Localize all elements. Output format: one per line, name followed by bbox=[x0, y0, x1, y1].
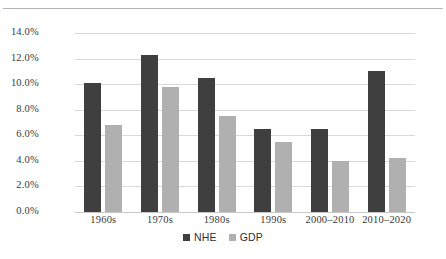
top-divider-rule bbox=[3, 8, 443, 9]
x-axis-tick-label: 1990s bbox=[245, 214, 302, 225]
gridline bbox=[75, 212, 415, 213]
bar-group bbox=[302, 33, 359, 212]
legend-swatch-icon bbox=[183, 234, 190, 241]
x-axis-tick-label: 1980s bbox=[188, 214, 245, 225]
x-axis-tick-label: 2000–2010 bbox=[302, 214, 359, 225]
bar-group bbox=[75, 33, 132, 212]
bar-gdp bbox=[162, 87, 179, 212]
bar-nhe bbox=[368, 71, 385, 212]
legend-label: GDP bbox=[240, 231, 263, 243]
bar-nhe bbox=[84, 83, 101, 212]
x-axis-tick-label: 1960s bbox=[75, 214, 132, 225]
bar-gdp bbox=[332, 161, 349, 212]
legend-swatch-icon bbox=[229, 234, 236, 241]
bar-gdp bbox=[219, 116, 236, 212]
bar-gdp bbox=[389, 158, 406, 212]
y-axis-tick-label: 10.0% bbox=[0, 77, 39, 88]
x-axis-tick-label: 1970s bbox=[132, 214, 189, 225]
y-axis-tick-label: 8.0% bbox=[0, 103, 39, 114]
y-axis-tick-label: 4.0% bbox=[0, 154, 39, 165]
bar-nhe bbox=[141, 55, 158, 212]
bar-group bbox=[132, 33, 189, 212]
x-axis-labels: 1960s1970s1980s1990s2000–20102010–2020 bbox=[75, 214, 415, 225]
y-axis-tick-label: 14.0% bbox=[0, 26, 39, 37]
y-axis-tick-label: 12.0% bbox=[0, 52, 39, 63]
y-axis-tick-label: 2.0% bbox=[0, 179, 39, 190]
bar-nhe bbox=[311, 129, 328, 212]
bar-group bbox=[188, 33, 245, 212]
bar-gdp bbox=[105, 125, 122, 212]
legend-label: NHE bbox=[194, 231, 217, 243]
chart-figure: 14.0%12.0%10.0%8.0%6.0%4.0%2.0%0.0% 1960… bbox=[0, 0, 446, 259]
chart-legend: NHEGDP bbox=[0, 231, 446, 243]
y-axis-tick-label: 0.0% bbox=[0, 205, 39, 216]
legend-item-gdp: GDP bbox=[229, 231, 263, 243]
bar-group bbox=[245, 33, 302, 212]
x-axis-tick-label: 2010–2020 bbox=[358, 214, 415, 225]
bar-groups bbox=[75, 33, 415, 212]
y-axis-tick-label: 6.0% bbox=[0, 128, 39, 139]
bar-group bbox=[358, 33, 415, 212]
bar-nhe bbox=[254, 129, 271, 212]
bar-gdp bbox=[275, 142, 292, 212]
legend-item-nhe: NHE bbox=[183, 231, 217, 243]
bar-nhe bbox=[198, 78, 215, 212]
